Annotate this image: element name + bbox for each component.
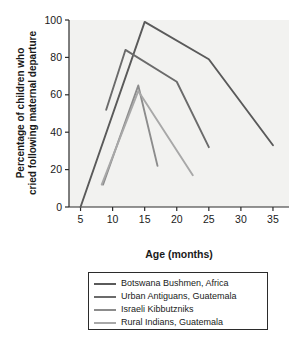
y-tick-label: 40 [50,126,62,138]
legend-line-swatch [94,283,116,285]
x-axis-ticks: 5101520253035 [78,207,279,225]
y-tick-label: 0 [56,201,62,213]
legend-item: Urban Antiguans, Guatemala [94,290,262,303]
x-tick-label: 30 [235,213,247,225]
x-tick-label: 35 [267,213,279,225]
legend-item: Botswana Bushmen, Africa [94,277,262,290]
y-tick-label: 80 [50,51,62,63]
line-chart-svg: 020406080100 5101520253035 Age (months) … [0,0,303,262]
x-axis-title: Age (months) [145,248,213,260]
chart-plot-area: 020406080100 5101520253035 Age (months) … [0,0,303,262]
legend-item: Israeli Kibbutzniks [94,303,262,316]
legend-line-swatch [94,322,116,324]
legend-item-label: Rural Indians, Guatemala [121,316,223,329]
x-tick-label: 5 [78,213,84,225]
y-tick-label: 60 [50,88,62,100]
chart-legend: Botswana Bushmen, Africa Urban Antiguans… [88,272,268,330]
y-tick-label: 20 [50,163,62,175]
legend-line-swatch [94,296,116,298]
legend-item-label: Israeli Kibbutzniks [121,303,194,316]
y-axis-title-line2: cried following maternal departure [27,31,38,195]
y-axis-title-line1: Percentage of children who [15,48,26,179]
x-tick-label: 20 [171,213,183,225]
legend-line-swatch [94,309,116,311]
x-tick-label: 25 [203,213,215,225]
plot-background [69,20,289,207]
x-tick-label: 10 [107,213,119,225]
y-axis-ticks: 020406080100 [44,14,69,213]
legend-item: Rural Indians, Guatemala [94,316,262,329]
x-tick-label: 15 [139,213,151,225]
y-tick-label: 100 [44,14,62,26]
legend-item-label: Botswana Bushmen, Africa [121,277,229,290]
figure: 020406080100 5101520253035 Age (months) … [0,0,303,339]
legend-item-label: Urban Antiguans, Guatemala [121,290,237,303]
